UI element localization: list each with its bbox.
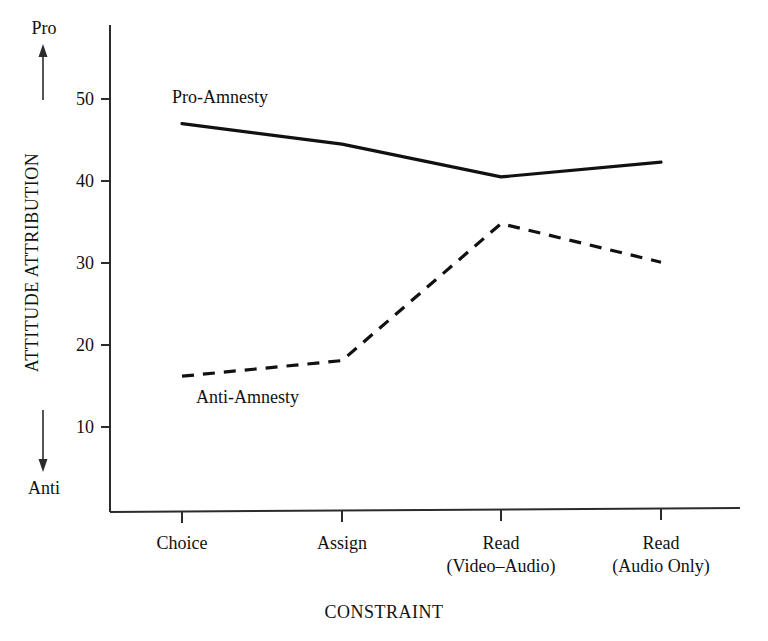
x-tick-label-read-audio-only-line1: Read xyxy=(566,532,756,555)
y-axis-title: ATTITUDE ATTRIBUTION xyxy=(22,113,43,413)
y-tick-label-30: 30 xyxy=(48,254,94,272)
x-tick-label-read-audio-only: Read (Audio Only) xyxy=(566,532,756,578)
y-tick-label-20: 20 xyxy=(48,336,94,354)
y-tick-label-50: 50 xyxy=(48,90,94,108)
anti-pole-arrow-icon xyxy=(39,410,48,472)
series-line-pro-amnesty xyxy=(182,124,661,177)
x-axis-title: CONSTRAINT xyxy=(0,602,768,623)
y-axis-pole-label-anti: Anti xyxy=(4,478,84,499)
y-axis-pole-label-pro: Pro xyxy=(4,18,84,39)
y-tick-label-40: 40 xyxy=(48,172,94,190)
chart-figure: Pro Anti ATTITUDE ATTRIBUTION 50 40 30 2… xyxy=(0,0,768,641)
x-axis-line xyxy=(110,508,740,512)
series-label-anti-amnesty: Anti-Amnesty xyxy=(196,387,299,408)
x-tick-label-read-audio-only-line2: (Audio Only) xyxy=(566,555,756,578)
pro-pole-arrow-icon xyxy=(39,44,48,100)
y-tick-label-10: 10 xyxy=(48,418,94,436)
series-line-anti-amnesty xyxy=(182,224,661,377)
y-axis-ticks xyxy=(101,99,110,427)
series-label-pro-amnesty: Pro-Amnesty xyxy=(172,87,268,108)
